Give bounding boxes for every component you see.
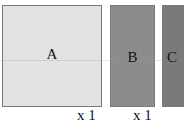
multiplier-a: x 1	[77, 107, 96, 123]
box-b: B	[110, 5, 155, 107]
guide-line	[0, 60, 184, 61]
multiplier-b: x 1	[133, 107, 152, 123]
box-c-label: C	[167, 49, 184, 66]
box-a: A	[2, 5, 102, 107]
box-c: C	[162, 5, 184, 107]
box-b-label: B	[111, 49, 154, 66]
